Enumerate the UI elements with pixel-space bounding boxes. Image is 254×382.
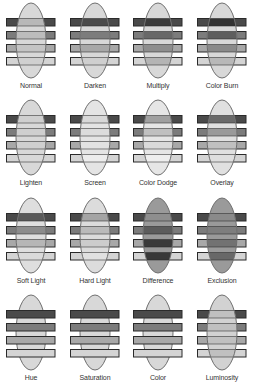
blend-mode-label: Color Dodge — [127, 179, 189, 187]
bar-shape — [71, 350, 120, 358]
blend-mode-swatch-color-dodge: Color Dodge — [127, 97, 191, 194]
blend-mode-swatch-soft-light: Soft Light — [0, 195, 64, 292]
blend-mode-grid: Normal Darken Multiply Color Burn Lighte… — [0, 0, 254, 382]
blend-mode-label: Darken — [64, 82, 126, 90]
blend-mode-label: Color Burn — [191, 82, 253, 90]
blend-mode-label: Normal — [0, 82, 62, 90]
blend-mode-swatch-screen: Screen — [64, 97, 128, 194]
blend-mode-swatch-exclusion: Exclusion — [191, 195, 254, 292]
blend-illustration — [0, 97, 64, 179]
bar-shape — [7, 337, 56, 345]
blend-mode-label: Color — [127, 374, 189, 382]
blend-illustration — [127, 292, 191, 374]
blend-mode-label: Overlay — [191, 179, 253, 187]
bar-shape — [134, 350, 183, 358]
blend-illustration — [127, 97, 191, 179]
bar-shape — [71, 337, 120, 345]
blend-mode-swatch-normal: Normal — [0, 0, 64, 97]
blend-illustration — [127, 0, 191, 82]
blend-mode-swatch-saturation: Saturation — [64, 292, 128, 382]
blend-illustration — [64, 292, 128, 374]
blend-illustration — [0, 195, 64, 277]
bar-shape — [134, 324, 183, 332]
blend-mode-label: Multiply — [127, 82, 189, 90]
blend-illustration — [0, 0, 64, 82]
blend-mode-label: Luminosity — [191, 374, 253, 382]
ellipse-shape — [80, 295, 110, 370]
blend-mode-label: Hard Light — [64, 277, 126, 285]
blend-illustration — [191, 292, 254, 374]
blend-mode-label: Exclusion — [191, 277, 253, 285]
blend-mode-label: Difference — [127, 277, 189, 285]
blend-mode-swatch-darken: Darken — [64, 0, 128, 97]
blend-mode-swatch-difference: Difference — [127, 195, 191, 292]
blend-mode-swatch-overlay: Overlay — [191, 97, 254, 194]
bar-shape — [71, 311, 120, 319]
blend-mode-label: Soft Light — [0, 277, 62, 285]
blend-mode-label: Saturation — [64, 374, 126, 382]
blend-illustration — [64, 97, 128, 179]
bar-shape — [7, 324, 56, 332]
bar-shape — [134, 337, 183, 345]
blend-mode-label: Hue — [0, 374, 62, 382]
blend-mode-swatch-hue: Hue — [0, 292, 64, 382]
ellipse-shape — [143, 295, 173, 370]
blend-illustration — [191, 195, 254, 277]
ellipse-shape — [16, 295, 46, 370]
blend-illustration — [64, 0, 128, 82]
blend-illustration — [191, 0, 254, 82]
blend-mode-swatch-color-burn: Color Burn — [191, 0, 254, 97]
bar-shape — [7, 350, 56, 358]
blend-mode-swatch-lighten: Lighten — [0, 97, 64, 194]
bar-shape — [71, 324, 120, 332]
blend-mode-label: Lighten — [0, 179, 62, 187]
blend-illustration — [64, 195, 128, 277]
blend-illustration — [191, 97, 254, 179]
blend-mode-swatch-luminosity: Luminosity — [191, 292, 254, 382]
blend-illustration — [0, 292, 64, 374]
blend-mode-swatch-multiply: Multiply — [127, 0, 191, 97]
blend-mode-swatch-hard-light: Hard Light — [64, 195, 128, 292]
bar-shape — [7, 311, 56, 319]
blend-mode-swatch-color: Color — [127, 292, 191, 382]
bar-shape — [134, 311, 183, 319]
blend-mode-label: Screen — [64, 179, 126, 187]
blend-illustration — [127, 195, 191, 277]
